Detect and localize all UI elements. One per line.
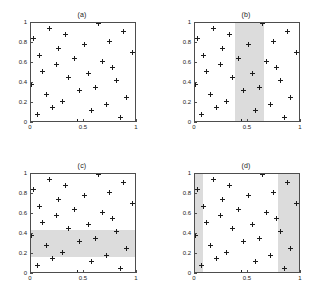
data-point <box>110 216 115 221</box>
data-point <box>47 177 52 182</box>
panel-d-yticklabel: 1 <box>175 170 191 177</box>
data-point <box>75 119 80 123</box>
data-point <box>241 239 246 244</box>
panel-d: (d) 00.5100.20.40.60.81 <box>164 151 328 302</box>
data-point <box>35 263 40 268</box>
panel-c: (c) 00.5100.20.40.60.81 <box>0 151 164 302</box>
panel-d-shaded-region-2 <box>278 174 300 273</box>
panel-d-ytick <box>194 173 197 174</box>
panel-a-yticklabel: 0.2 <box>11 99 27 106</box>
data-point <box>77 88 82 93</box>
data-point <box>282 115 287 120</box>
data-point <box>218 213 223 218</box>
data-point <box>208 243 213 248</box>
panel-a-ytick <box>30 82 33 83</box>
panel-d-xtick <box>300 270 301 273</box>
data-point <box>260 173 265 177</box>
data-point <box>72 207 77 212</box>
panel-c-ytick <box>30 213 33 214</box>
panel-d-axes <box>194 173 300 273</box>
data-point <box>107 190 112 195</box>
panel-d-ytick <box>194 213 197 214</box>
data-point <box>75 270 80 274</box>
figure-panel-grid: (a) 00.5100.20.40.60.81 (b) 00.5100.20.4… <box>0 0 328 302</box>
data-point <box>56 197 61 202</box>
panel-d-shaded-region-1 <box>195 174 203 273</box>
data-point <box>239 270 244 274</box>
data-point <box>199 112 204 117</box>
data-point <box>214 256 219 261</box>
panel-a: (a) 00.5100.20.40.60.81 <box>0 0 164 151</box>
data-point <box>104 102 109 107</box>
data-point <box>236 207 241 212</box>
data-point <box>86 222 91 227</box>
data-point <box>72 56 77 61</box>
panel-b-yticklabel: 0.2 <box>175 99 191 106</box>
panel-c-xticklabel: 0.5 <box>75 275 91 282</box>
data-point <box>130 201 135 206</box>
panel-b-xticklabel: 0.5 <box>239 124 255 131</box>
panel-d-xtick <box>247 270 248 273</box>
panel-c-ytick <box>30 173 33 174</box>
panel-d-ytick <box>194 193 197 194</box>
data-point <box>86 71 91 76</box>
data-point <box>214 105 219 110</box>
panel-d-ytick <box>194 253 197 254</box>
panel-b-yticklabel: 0.4 <box>175 79 191 86</box>
data-point <box>121 180 126 185</box>
panel-b-yticklabel: 1 <box>175 19 191 26</box>
data-point <box>250 222 255 227</box>
panel-c-yticklabel: 0.2 <box>11 250 27 257</box>
data-point <box>121 29 126 34</box>
panel-a-yticklabel: 0.8 <box>11 39 27 46</box>
data-point <box>54 213 59 218</box>
data-point <box>195 36 200 41</box>
panel-a-ytick <box>30 42 33 43</box>
data-point <box>124 95 129 100</box>
panel-a-yticklabel: 0.6 <box>11 59 27 66</box>
data-point <box>40 220 45 225</box>
data-point <box>63 32 68 37</box>
data-point <box>220 197 225 202</box>
panel-b: (b) 00.5100.20.40.60.81 <box>164 0 328 151</box>
data-point <box>227 183 232 188</box>
data-point <box>208 92 213 97</box>
data-point <box>118 266 123 271</box>
data-point <box>201 53 206 58</box>
data-point <box>274 65 279 70</box>
data-point <box>56 46 61 51</box>
data-point <box>114 78 119 83</box>
data-point <box>96 173 101 177</box>
panel-a-xtick <box>136 119 137 122</box>
data-point <box>47 26 52 31</box>
data-point <box>288 95 293 100</box>
data-point <box>100 59 105 64</box>
panel-a-ytick <box>30 122 33 123</box>
data-point <box>82 193 87 198</box>
panel-c-yticklabel: 0 <box>11 270 27 277</box>
data-point <box>264 210 269 215</box>
panel-a-ytick <box>30 22 33 23</box>
panel-d-yticklabel: 0.8 <box>175 190 191 197</box>
data-point <box>204 220 209 225</box>
panel-a-yticklabel: 0.4 <box>11 79 27 86</box>
panel-d-yticklabel: 0.2 <box>175 250 191 257</box>
panel-c-xtick <box>83 270 84 273</box>
panel-d-yticklabel: 0 <box>175 270 191 277</box>
panel-b-ytick <box>194 122 197 123</box>
panel-b-ytick <box>194 102 197 103</box>
data-point <box>107 39 112 44</box>
panel-c-xtick <box>136 270 137 273</box>
panel-b-xtick <box>247 119 248 122</box>
panel-a-xticklabel: 0.5 <box>75 124 91 131</box>
panel-c-yticklabel: 0.8 <box>11 190 27 197</box>
panel-c-yticklabel: 1 <box>11 170 27 177</box>
data-point <box>31 36 36 41</box>
panel-b-ytick <box>194 22 197 23</box>
data-point <box>294 50 299 55</box>
data-point <box>44 92 49 97</box>
data-point <box>118 115 123 120</box>
panel-d-yticklabel: 0.4 <box>175 230 191 237</box>
panel-c-yticklabel: 0.4 <box>11 230 27 237</box>
data-point <box>268 102 273 107</box>
